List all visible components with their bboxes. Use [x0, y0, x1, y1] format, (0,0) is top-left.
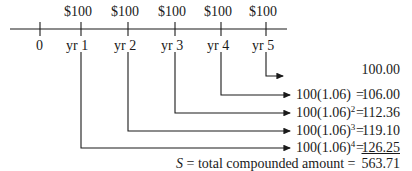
total-eq2: = [348, 156, 356, 171]
payment-label-yr4: $100 [204, 5, 232, 19]
total-symbol: S [176, 156, 183, 171]
arrow-yr3 [175, 52, 290, 113]
total-eq1: = [187, 156, 195, 171]
tick-label-yr4: yr 4 [207, 39, 229, 53]
tick-label-yr1: yr 1 [66, 39, 88, 53]
payment-label-yr3: $100 [158, 5, 186, 19]
total-line: S = total compounded amount = [176, 157, 356, 171]
arrow-yr1 [81, 52, 290, 148]
tick-label-yr5: yr 5 [252, 39, 274, 53]
total-label: total compounded amount [198, 156, 344, 171]
row-1-expr: 100(1.06) [296, 88, 351, 102]
payment-label-yr5: $100 [249, 5, 277, 19]
tick-label-0: 0 [36, 39, 43, 53]
row-3-value: 119.10 [362, 124, 400, 138]
payment-label-yr2: $100 [111, 5, 139, 19]
tick-label-yr3: yr 3 [161, 39, 183, 53]
total-value: 563.71 [362, 157, 401, 171]
tick-label-yr2: yr 2 [114, 39, 136, 53]
row-0-value: 100.00 [362, 63, 401, 77]
row-4-value: 126.25 [362, 141, 401, 155]
row-1-value: 106.00 [362, 88, 401, 102]
row-2-expr: 100(1.06)2 [296, 106, 355, 120]
arrow-yr4 [221, 52, 290, 95]
payment-label-yr1: $100 [64, 5, 92, 19]
row-4-expr: 100(1.06)4 [296, 141, 355, 155]
row-3-expr: 100(1.06)3 [296, 124, 355, 138]
row-2-value: 112.36 [362, 106, 400, 120]
arrow-yr5 [266, 52, 283, 76]
